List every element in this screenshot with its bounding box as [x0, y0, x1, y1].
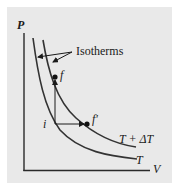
- v-axis-label: V: [153, 163, 160, 175]
- pv-diagram: [0, 0, 178, 190]
- curve-label-T-plus-dT: T + ΔT: [119, 133, 153, 145]
- isotherms-label: Isotherms: [76, 45, 123, 57]
- point-f-label: f: [60, 69, 63, 81]
- p-axis-label: P: [17, 19, 24, 31]
- point-f-prime-label: f′: [92, 113, 98, 125]
- point-f-prime: [84, 121, 89, 126]
- point-i-label: i: [43, 118, 46, 130]
- curve-label-T: T: [136, 154, 143, 166]
- isotherm-pointer-arrows: [38, 52, 72, 62]
- point-f: [52, 74, 57, 79]
